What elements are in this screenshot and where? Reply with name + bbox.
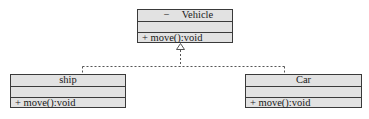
class-name-section: − Vehicle — [138, 10, 232, 21]
attributes-section — [246, 86, 361, 97]
class-box-ship[interactable]: ship + move():void — [10, 74, 126, 108]
visibility-marker: − — [164, 10, 170, 21]
operation-move: + move():void — [15, 98, 75, 108]
class-name-section: ship — [11, 75, 125, 86]
attributes-section — [11, 86, 125, 97]
class-name: ship — [59, 75, 77, 86]
class-name-section: Car — [246, 75, 361, 86]
uml-class-diagram: − Vehicle + move():void ship + move():vo… — [0, 0, 369, 119]
attributes-section — [138, 21, 232, 32]
class-name: Vehicle — [182, 10, 214, 21]
operations-section: + move():void — [246, 97, 361, 108]
class-name: Car — [296, 75, 311, 86]
operation-move: + move():void — [142, 33, 202, 43]
operations-section: + move():void — [11, 97, 125, 108]
operation-move: + move():void — [250, 98, 310, 108]
class-box-car[interactable]: Car + move():void — [245, 74, 362, 108]
class-box-vehicle[interactable]: − Vehicle + move():void — [137, 9, 233, 43]
operations-section: + move():void — [138, 32, 232, 43]
hollow-triangle-arrowhead-icon — [177, 44, 185, 50]
